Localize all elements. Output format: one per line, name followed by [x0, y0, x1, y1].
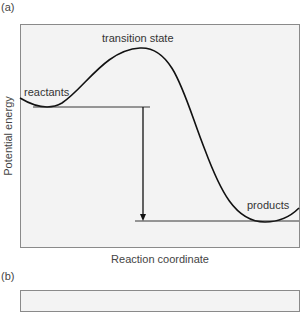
- panel-b-plot-area: [20, 290, 300, 312]
- energy-curve: [20, 48, 299, 222]
- products-label: products: [247, 199, 289, 211]
- arrowhead-icon: [140, 214, 146, 221]
- y-axis-label: Potential energy: [2, 96, 14, 176]
- panel-b-label: (b): [1, 270, 14, 282]
- transition-state-label: transition state: [102, 32, 174, 44]
- reactants-label: reactants: [24, 86, 69, 98]
- x-axis-label: Reaction coordinate: [20, 253, 300, 265]
